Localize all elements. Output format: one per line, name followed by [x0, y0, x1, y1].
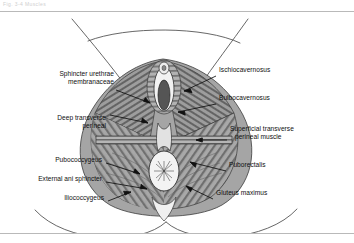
urethral-orifice [162, 65, 166, 70]
label-external-ani-sphincter: External ani sphincter [2, 175, 102, 183]
vaginal-orifice [158, 80, 170, 110]
label-gluteus-maximus: Gluteus maximus [216, 189, 267, 197]
pubic-arch-curve [88, 30, 240, 43]
label-puborectalis: Puborectalis [229, 161, 266, 169]
document-page: Fig. 3-4 Muscles [0, 0, 354, 243]
label-sphincter-urethrae: Sphincter urethraemembranaceae [10, 70, 114, 86]
label-iliococcygeus: Iliococcygeus [8, 194, 104, 202]
label-superficial-transverse-perineal-muscle: Superficial transverseperineal muscle [230, 125, 294, 141]
label-bulbocavernosus: Bulbocavernosus [219, 94, 270, 102]
label-ischiocavernosus: Ischiocavernosus [219, 66, 270, 74]
label-deep-transverse-perineal: Deep transverseperineal [8, 114, 106, 130]
label-pubococcygeus: Pubococcygeus [8, 156, 102, 164]
page-header-note: Fig. 3-4 Muscles [3, 1, 46, 7]
bottom-horizontal-rule [0, 233, 354, 234]
